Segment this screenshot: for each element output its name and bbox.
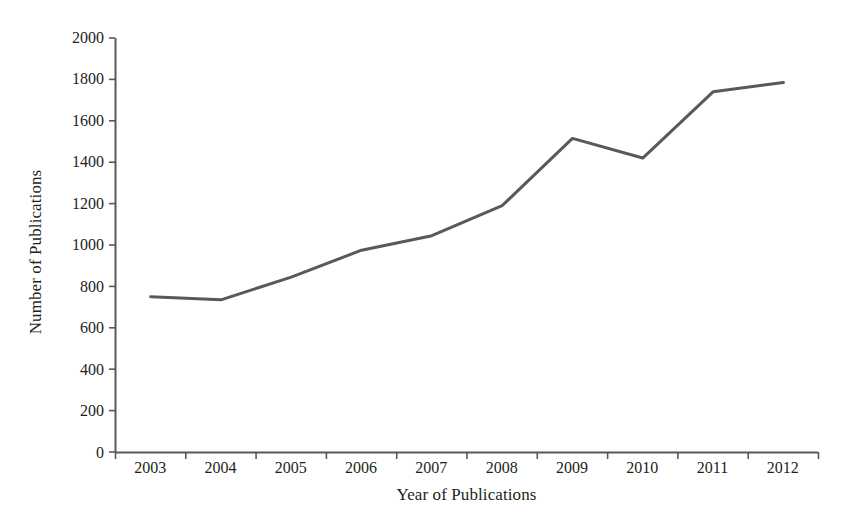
y-axis-title: Number of Publications [22, 32, 50, 472]
x-tick-label: 2003 [115, 458, 185, 478]
y-tick-label: 1600 [50, 113, 104, 129]
y-tick-label: 800 [50, 279, 104, 295]
x-tick-label: 2004 [185, 458, 255, 478]
y-tick-label: 1800 [50, 71, 104, 87]
x-tick-label: 2011 [678, 458, 748, 478]
x-axis-tick-labels: 2003 2004 2005 2006 2007 2008 2009 2010 … [115, 458, 818, 482]
y-axis-tick-labels: 2000 1800 1600 1400 1200 1000 800 600 40… [48, 0, 104, 523]
x-tick-label: 2009 [537, 458, 607, 478]
y-tick-label: 0 [50, 445, 104, 461]
plot-area [0, 0, 856, 523]
publications-line-chart: Number of Publications 2000 1800 1600 14… [0, 0, 856, 523]
data-series-line [151, 83, 784, 300]
x-tick-label: 2012 [748, 458, 818, 478]
y-tick-label: 600 [50, 320, 104, 336]
x-tick-label: 2008 [467, 458, 537, 478]
x-tick-label: 2005 [256, 458, 326, 478]
x-tick-label: 2006 [326, 458, 396, 478]
y-tick-label: 1200 [50, 196, 104, 212]
x-axis-title: Year of Publications [115, 484, 818, 506]
y-tick-label: 1400 [50, 154, 104, 170]
x-tick-label: 2010 [607, 458, 677, 478]
y-tick-label: 2000 [50, 30, 104, 46]
y-tick-label: 400 [50, 362, 104, 378]
y-axis-ticks [109, 38, 115, 452]
y-tick-label: 200 [50, 403, 104, 419]
y-tick-label: 1000 [50, 237, 104, 253]
x-tick-label: 2007 [396, 458, 466, 478]
